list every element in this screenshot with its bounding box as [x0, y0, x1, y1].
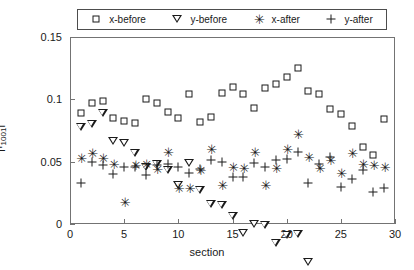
- plus-marker: [380, 183, 389, 192]
- plus-marker: [87, 157, 96, 166]
- plus-marker: [315, 160, 324, 169]
- chart-legend: x-beforey-before✳x-aftery-after: [77, 9, 387, 30]
- legend-entry-x-before: x-before: [91, 14, 146, 25]
- asterisk-marker: ✳: [254, 15, 263, 24]
- plus-marker: [206, 156, 215, 165]
- plus-marker: [261, 162, 270, 171]
- plus-marker: [271, 156, 280, 165]
- square-icon: [91, 14, 102, 25]
- plus-marker: [196, 165, 205, 174]
- legend-label: y-after: [344, 15, 372, 25]
- legend-label: y-before: [190, 15, 227, 25]
- plus-marker: [217, 157, 226, 166]
- plus-marker: [282, 155, 291, 164]
- plus-marker: [327, 15, 336, 24]
- plus-marker: [152, 161, 161, 170]
- plus-marker: [163, 160, 172, 169]
- plus-marker: [358, 166, 367, 175]
- plus-marker: [120, 162, 129, 171]
- plus-marker: [336, 182, 345, 191]
- legend-entry-y-after: y-after: [326, 14, 372, 25]
- plus-marker: [131, 162, 140, 171]
- plus-marker: [347, 175, 356, 184]
- legend-entry-y-before: y-before: [172, 14, 227, 25]
- plus-icon: [326, 14, 337, 25]
- plus-marker: [109, 170, 118, 179]
- plus-marker: [185, 168, 194, 177]
- legend-label: x-after: [272, 15, 300, 25]
- plus-marker: [326, 152, 335, 161]
- plus-marker: [228, 172, 237, 181]
- plus-marker: [174, 162, 183, 171]
- triangle-down-icon: [172, 14, 183, 25]
- scatter-chart-figure: x-beforey-before✳x-aftery-after 00.050.1…: [0, 0, 414, 270]
- plus-marker: [141, 171, 150, 180]
- triangle-down-marker: [172, 15, 182, 23]
- plus-marker: [293, 147, 302, 156]
- plus-marker: [369, 187, 378, 196]
- plus-marker: [98, 161, 107, 170]
- plus-marker: [76, 178, 85, 187]
- asterisk-icon: ✳: [254, 14, 265, 25]
- legend-label: x-before: [109, 15, 146, 25]
- plus-marker: [250, 158, 259, 167]
- plus-marker: [304, 178, 313, 187]
- legend-entry-x-after: ✳x-after: [254, 14, 300, 25]
- series-y-after: [0, 0, 414, 270]
- square-marker: [93, 16, 100, 23]
- plus-marker: [239, 172, 248, 181]
